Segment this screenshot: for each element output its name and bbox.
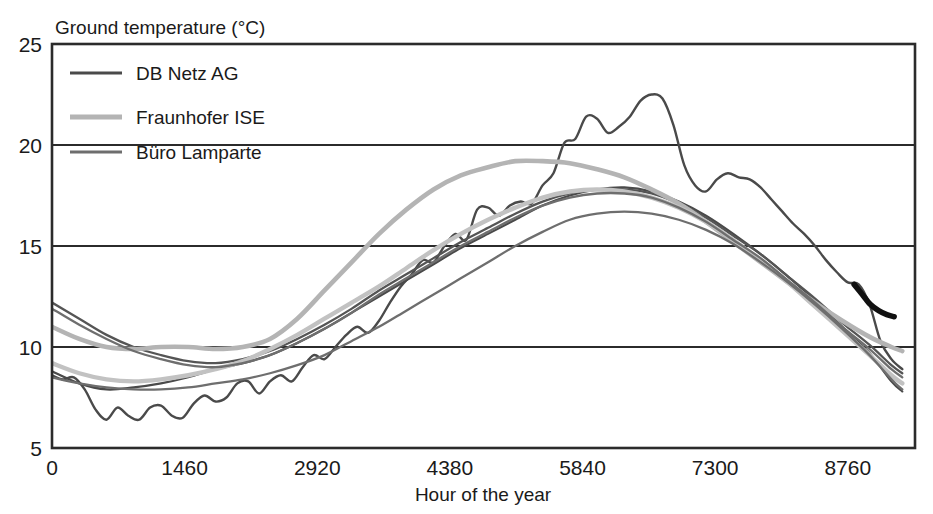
legend-label-2: Büro Lamparte <box>136 142 262 163</box>
y-tick-5: 5 <box>30 437 42 460</box>
y-tick-15: 15 <box>19 235 42 258</box>
y-tick-25: 25 <box>19 33 42 56</box>
x-tick-8760: 8760 <box>824 456 871 479</box>
x-axis-title: Hour of the year <box>415 484 552 505</box>
x-tick-7300: 7300 <box>692 456 739 479</box>
x-tick-4380: 4380 <box>427 456 474 479</box>
x-tick-5840: 5840 <box>559 456 606 479</box>
chart-svg: 510152025 0146029204380584073008760 Grou… <box>0 0 933 514</box>
legend: DB Netz AGFraunhofer ISEBüro Lamparte <box>70 63 265 163</box>
x-tick-labels: 0146029204380584073008760 <box>46 456 871 479</box>
series-line-4 <box>52 189 902 383</box>
x-tick-1460: 1460 <box>161 456 208 479</box>
y-tick-labels: 510152025 <box>19 33 42 460</box>
series-line-1 <box>52 187 902 391</box>
x-tick-2920: 2920 <box>294 456 341 479</box>
chart-title: Ground temperature (°C) <box>55 17 265 38</box>
series-line-3 <box>52 161 902 351</box>
x-tick-0: 0 <box>46 456 58 479</box>
ground-temperature-chart: 510152025 0146029204380584073008760 Grou… <box>0 0 933 514</box>
series-line-5 <box>52 193 902 377</box>
series-line-7 <box>854 284 894 316</box>
gridlines <box>52 145 915 347</box>
legend-label-1: Fraunhofer ISE <box>136 107 265 128</box>
y-tick-10: 10 <box>19 336 42 359</box>
legend-label-0: DB Netz AG <box>136 63 238 84</box>
y-tick-20: 20 <box>19 134 42 157</box>
